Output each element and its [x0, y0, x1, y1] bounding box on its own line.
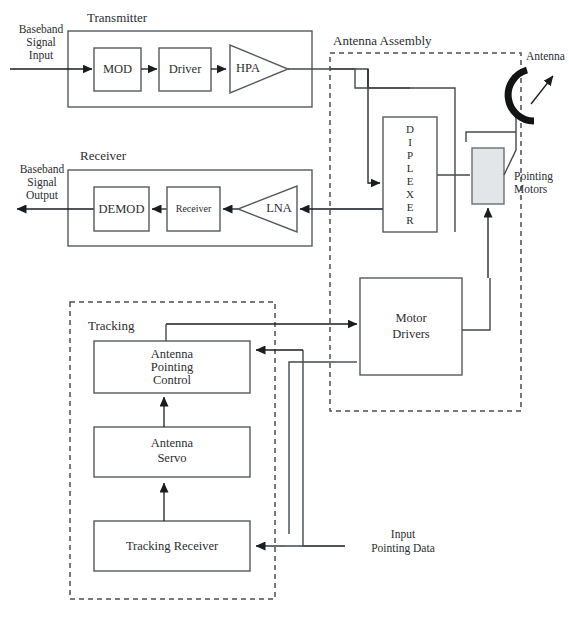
hpa-block-label: HPA	[236, 61, 260, 75]
antenna-servo-label-line2: Servo	[157, 451, 186, 465]
diplexer-letter-3: L	[407, 162, 414, 174]
antenna-pointing-control-label-line1: Antenna	[151, 347, 194, 361]
pointing-data-branch-md-vertical	[289, 362, 335, 534]
motor-drivers-label-line2: Drivers	[392, 327, 430, 341]
antenna-servo-label-line1: Antenna	[151, 436, 194, 450]
baseband-input-label-line1: Baseband	[19, 23, 64, 35]
antenna-linkage-wire	[504, 110, 516, 175]
baseband-output-label-line1: Baseband	[20, 163, 65, 175]
diplexer-letter-1: I	[408, 136, 412, 148]
diplexer-letter-2: P	[407, 149, 413, 161]
pointing-data-branch-apc-vertical	[303, 350, 345, 546]
driver-block-label: Driver	[169, 62, 202, 76]
demod-block-label: DEMOD	[99, 202, 145, 216]
antenna-pointing-control-label-line2: Pointing	[151, 360, 194, 374]
pointing-motors-label-line2: Motors	[514, 183, 548, 195]
tracking-receiver-label: Tracking Receiver	[126, 539, 219, 553]
motor-drivers-output-wire	[462, 278, 490, 330]
antenna-rotation-arrow	[531, 76, 553, 104]
baseband-input-label-line2: Signal	[26, 36, 55, 49]
baseband-input-label-line3: Input	[29, 49, 54, 62]
tx-into-diplexer-wire	[368, 69, 380, 183]
mod-block-label: MOD	[103, 62, 132, 76]
block-diagram-svg: Transmitter Receiver Antenna Assembly Tr…	[0, 0, 569, 625]
diplexer-letter-4: E	[407, 175, 414, 187]
baseband-output-label-line2: Signal	[27, 176, 56, 189]
diplexer-letter-0: D	[406, 123, 414, 135]
tracking-section-label: Tracking	[88, 318, 135, 333]
lna-block-label: LNA	[266, 201, 292, 215]
input-pointing-data-label-line1: Input	[391, 528, 416, 541]
hpa-output-wire-seg1	[288, 69, 410, 88]
baseband-output-label-line3: Output	[26, 189, 59, 202]
diplexer-letter-7: R	[406, 214, 414, 226]
pointing-motors-block	[472, 148, 504, 204]
input-pointing-data-label-line2: Pointing Data	[371, 542, 435, 555]
receiver-section-label: Receiver	[80, 148, 127, 163]
diagram-page: Transmitter Receiver Antenna Assembly Tr…	[0, 0, 569, 625]
pointing-motors-label-line1: Pointing	[514, 170, 553, 183]
receiver-block-label: Receiver	[176, 203, 212, 214]
motors-top-wire	[466, 132, 516, 142]
transmitter-section-label: Transmitter	[87, 10, 148, 25]
antenna-assembly-section-label: Antenna Assembly	[333, 33, 432, 48]
antenna-label: Antenna	[526, 50, 565, 62]
antenna-rotation-arc	[508, 70, 534, 121]
motor-drivers-label-line1: Motor	[395, 311, 427, 325]
antenna-pointing-control-label-line3: Control	[153, 373, 192, 387]
diplexer-letter-5: X	[406, 188, 414, 200]
diplexer-letter-6: E	[407, 201, 414, 213]
